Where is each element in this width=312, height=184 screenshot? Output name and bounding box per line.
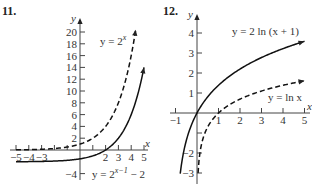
series-label-2: y = 2x−1 − 2 bbox=[92, 166, 145, 180]
x-tick-label: 4 bbox=[128, 151, 134, 163]
problem-number: 12. bbox=[163, 4, 178, 18]
x-tick-label: 1 bbox=[216, 114, 222, 126]
y-tick-label: 1 bbox=[189, 87, 195, 99]
x-tick-label: 3 bbox=[116, 151, 122, 163]
y-tick-label: −4 bbox=[65, 168, 77, 180]
x-tick-label: 2 bbox=[103, 151, 109, 163]
y-axis-label: y bbox=[187, 8, 193, 20]
y-axis-arrow bbox=[194, 14, 199, 20]
problem-number: 11. bbox=[2, 4, 16, 18]
chart-11: 11.yx−5−4−32345−42468101214161820y = 2xy… bbox=[2, 4, 150, 180]
series-label-2: y = ln x bbox=[268, 91, 303, 103]
series-arrow-1 bbox=[298, 41, 305, 46]
y-tick-label: 3 bbox=[189, 47, 195, 59]
x-tick-label: 5 bbox=[302, 114, 308, 126]
x-tick-label: 2 bbox=[237, 114, 243, 126]
y-tick-label: 12 bbox=[66, 73, 77, 85]
y-tick-label: 18 bbox=[66, 38, 78, 50]
y-tick-label: 14 bbox=[66, 61, 78, 73]
x-axis-label: x bbox=[144, 137, 150, 149]
y-tick-label: 20 bbox=[66, 26, 78, 38]
x-tick-label: −1 bbox=[170, 114, 182, 126]
y-tick-label: 16 bbox=[66, 50, 78, 62]
y-tick-label: 2 bbox=[72, 132, 78, 144]
series-arrow-1 bbox=[132, 30, 137, 36]
series-arrow-2 bbox=[298, 79, 304, 84]
y-tick-label: 2 bbox=[189, 67, 195, 79]
y-tick-label: 4 bbox=[189, 27, 195, 39]
y-tick-label: −3 bbox=[182, 167, 194, 179]
chart-12: 12.yx−112345−3−21234y = 2 ln (x + 1)y = … bbox=[163, 4, 312, 184]
series-line-1 bbox=[180, 41, 304, 173]
y-tick-label: 8 bbox=[72, 97, 78, 109]
y-axis-arrow bbox=[77, 18, 82, 24]
series-label-1: y = 2x bbox=[100, 33, 127, 47]
x-axis-label: x bbox=[306, 100, 312, 112]
x-tick-label: 4 bbox=[280, 114, 286, 126]
y-axis-label: y bbox=[70, 12, 76, 24]
x-tick-label: 3 bbox=[259, 114, 265, 126]
figure: 11.yx−5−4−32345−42468101214161820y = 2xy… bbox=[0, 0, 312, 184]
y-tick-label: 4 bbox=[72, 120, 78, 132]
series-arrow-2 bbox=[140, 67, 145, 73]
y-tick-label: 10 bbox=[66, 85, 78, 97]
series-label-1: y = 2 ln (x + 1) bbox=[232, 25, 299, 38]
x-tick-label: 5 bbox=[141, 151, 147, 163]
y-tick-label: 6 bbox=[72, 109, 78, 121]
